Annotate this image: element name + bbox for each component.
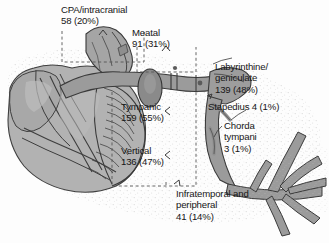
label-chorda-tympani: Chorda tympani 3 (1%) <box>224 120 257 154</box>
label-infratemporal-peripheral: Infratemporal and peripheral 41 (14%) <box>176 188 249 222</box>
label-stapedius: Stapedius 4 (1%) <box>208 101 279 112</box>
label-meatal: Meatal 91 (31%) <box>132 27 170 50</box>
label-cpa-intracranial: CPA/intracranial 58 (20%) <box>61 4 127 27</box>
figure-canvas: CPA/intracranial 58 (20%) Meatal 91 (31%… <box>0 0 329 243</box>
label-labyrinthine-geniculate: Labyrinthine/ geniculate 139 (48%) <box>215 61 268 95</box>
label-tympanic: Tympanic 159 (55%) <box>121 101 164 124</box>
label-vertical: Vertical 136 (47%) <box>121 145 164 168</box>
